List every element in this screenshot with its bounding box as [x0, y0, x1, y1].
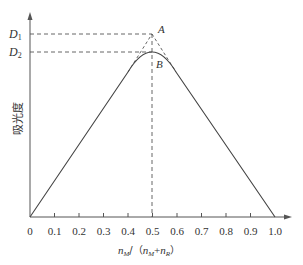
svg-text:0.7: 0.7: [195, 225, 209, 237]
point-b-label: B: [156, 58, 163, 70]
svg-text:0.4: 0.4: [121, 225, 135, 237]
measured-curve: [30, 52, 275, 217]
svg-text:1.0: 1.0: [268, 225, 282, 237]
svg-text:0.3: 0.3: [97, 225, 111, 237]
svg-text:0.6: 0.6: [170, 225, 184, 237]
svg-text:0.8: 0.8: [219, 225, 233, 237]
svg-text:0.2: 0.2: [72, 225, 86, 237]
d1-label: D1: [8, 27, 22, 42]
y-axis-arrow: [28, 12, 33, 20]
y-axis-label: 吸光度: [11, 102, 24, 135]
x-tick-labels: 0 0.1 0.2 0.3 0.4 0.5 0.6 0.7 0.8 0.9 1.…: [27, 225, 282, 237]
x-ticks: [55, 213, 251, 217]
d2-label: D2: [8, 45, 22, 60]
job-plot-chart: 0 0.1 0.2 0.3 0.4 0.5 0.6 0.7 0.8 0.9 1.…: [0, 0, 303, 265]
x-axis-arrow: [284, 215, 292, 220]
x-axis-label: nM/（nM+nR）: [118, 244, 180, 258]
svg-text:0.5: 0.5: [146, 225, 160, 237]
svg-text:0: 0: [27, 225, 33, 237]
point-a-label: A: [157, 23, 165, 35]
svg-text:0.1: 0.1: [48, 225, 62, 237]
svg-text:0.9: 0.9: [244, 225, 258, 237]
